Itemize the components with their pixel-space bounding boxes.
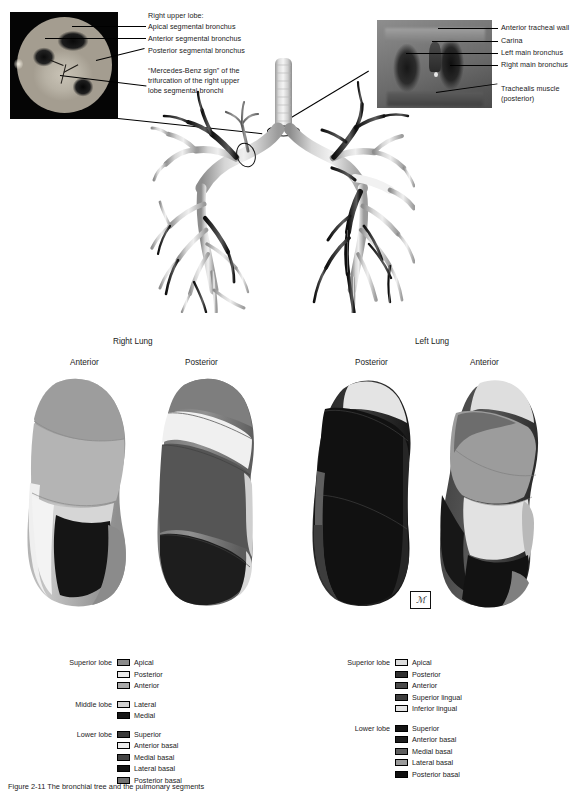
legend-row: Anterior: [117, 680, 267, 692]
legend-segment-label: Lateral basal: [412, 758, 453, 768]
label-trachealis-posterior: (posterior): [501, 94, 534, 104]
legend-row: Posterior: [117, 669, 267, 681]
legend-segment-label: Posterior: [412, 670, 441, 680]
legend-row: Superior lobeApical: [117, 657, 267, 669]
legend-segment-label: Posterior basal: [412, 770, 460, 780]
legend-segment-label: Anterior: [134, 681, 159, 691]
legend-color-swatch: [117, 754, 130, 761]
legend-row: Lower lobeSuperior: [395, 723, 545, 735]
leader-right-main-bronchus: [450, 65, 498, 66]
label-carina: Carina: [501, 36, 522, 46]
figure-caption: Figure 2-11 The bronchial tree and the p…: [8, 782, 204, 791]
right-lung-anterior-label: Anterior: [70, 358, 99, 368]
legend-row: Lateral basal: [395, 757, 545, 769]
legend-lobe-label: Superior lobe: [347, 658, 390, 667]
right-lung-title: Right Lung: [113, 337, 153, 347]
legend-row: Lower lobeSuperior: [117, 729, 267, 741]
legend-color-swatch: [117, 671, 130, 678]
carina-shape: [429, 42, 441, 72]
legend-row: Middle lobeLateral: [117, 699, 267, 711]
legend-segment-label: Anterior: [412, 681, 437, 691]
legend-color-swatch: [117, 765, 130, 772]
label-posterior-segmental: Posterior segmental bronchus: [148, 46, 245, 56]
leader-left-main-bronchus: [406, 53, 498, 54]
label-apical-segmental: Apical segmental bronchus: [148, 22, 236, 32]
legend-group: Lower lobeSuperiorAnterior basalMedial b…: [395, 723, 545, 781]
legend-row: Posterior: [395, 669, 545, 681]
trachea: [268, 58, 300, 136]
left-lung-anterior-label: Anterior: [470, 358, 499, 368]
legend-segment-label: Posterior: [134, 670, 163, 680]
legend-lobe-label: Lower lobe: [77, 730, 112, 739]
label-anterior-tracheal-wall: Anterior tracheal wall: [501, 23, 569, 33]
figure-canvas: Right upper lobe: Apical segmental bronc…: [0, 0, 575, 791]
legend-color-swatch: [395, 748, 408, 755]
left-upper-dark-segments: [322, 82, 408, 157]
leader-carina: [432, 41, 498, 42]
lung-model-right-posterior: [148, 375, 268, 610]
left-lung-posterior-label: Posterior: [355, 358, 388, 368]
legend-lobe-label: Middle lobe: [75, 700, 112, 709]
legend-segment-label: Anterior basal: [134, 741, 178, 751]
leader-anterior-tracheal-wall: [438, 28, 498, 29]
label-anterior-segmental: Anterior segmental bronchus: [148, 34, 241, 44]
legend-segment-label: Apical: [134, 658, 154, 668]
lung-model-left-posterior: [303, 375, 423, 610]
specular-highlight-right: [434, 72, 438, 77]
specular-highlight-left: [14, 58, 23, 70]
legend-row: Anterior basal: [117, 740, 267, 752]
legend-color-swatch: [395, 671, 408, 678]
legend-right-lung: Superior lobeApicalPosteriorAnteriorMidd…: [117, 657, 267, 786]
legend-color-swatch: [395, 736, 408, 743]
legend-color-swatch: [395, 705, 408, 712]
legend-row: Anterior basal: [395, 734, 545, 746]
bronchoscopic-view-right-upper-lobe: [10, 12, 118, 119]
legend-group: Superior lobeApicalPosteriorAnteriorSupe…: [395, 657, 545, 715]
legend-color-swatch: [117, 712, 130, 719]
legend-row: Posterior basal: [395, 769, 545, 781]
lung-model-right-anterior: [16, 375, 144, 610]
legend-left-lung: Superior lobeApicalPosteriorAnteriorSupe…: [395, 657, 545, 780]
left-lung-title: Left Lung: [415, 337, 449, 347]
label-left-main-bronchus: Left main bronchus: [501, 48, 563, 58]
left-ant-inferior-lingular: [463, 497, 529, 560]
legend-group: Middle lobeLateralMedial: [117, 699, 267, 722]
leader-apical: [72, 26, 146, 27]
legend-color-swatch: [395, 682, 408, 689]
lung-model-left-anterior: [428, 375, 556, 610]
legend-row: Lateral basal: [117, 763, 267, 775]
legend-color-swatch: [395, 725, 408, 732]
legend-color-swatch: [117, 701, 130, 708]
legend-segment-label: Medial basal: [134, 753, 174, 763]
legend-color-swatch: [395, 694, 408, 701]
label-right-upper-lobe: Right upper lobe:: [148, 11, 204, 21]
legend-segment-label: Lateral basal: [134, 764, 175, 774]
legend-color-swatch: [117, 731, 130, 738]
legend-segment-label: Medial: [134, 711, 155, 721]
legend-color-swatch: [395, 659, 408, 666]
bronchial-tree-illustration: [150, 58, 415, 313]
leader-anterior-seg: [45, 38, 146, 39]
bronchial-tree-svg: [150, 58, 415, 313]
legend-group: Lower lobeSuperiorAnterior basalMedial b…: [117, 729, 267, 787]
legend-row: Medial basal: [117, 752, 267, 764]
legend-segment-label: Superior: [134, 730, 161, 740]
legend-lobe-label: Lower lobe: [355, 724, 390, 733]
artist-signature-mark: ℳ: [410, 591, 431, 609]
legend-row: Medial: [117, 710, 267, 722]
right-lung-posterior-label: Posterior: [185, 358, 218, 368]
left-post-posterior-segment: [314, 408, 409, 605]
legend-segment-label: Anterior basal: [412, 735, 456, 745]
legend-color-swatch: [395, 771, 408, 778]
legend-color-swatch: [117, 659, 130, 666]
legend-segment-label: Medial basal: [412, 747, 452, 757]
legend-segment-label: Superior lingual: [412, 693, 462, 703]
artist-signature-glyph: ℳ: [416, 595, 426, 605]
legend-row: Inferior lingual: [395, 703, 545, 715]
legend-segment-label: Lateral: [134, 700, 156, 710]
legend-group: Superior lobeApicalPosteriorAnterior: [117, 657, 267, 692]
label-trachealis-muscle: Trachealis muscle: [501, 84, 560, 94]
label-right-main-bronchus: Right main bronchus: [501, 60, 568, 70]
legend-row: Superior lingual: [395, 692, 545, 704]
legend-row: Superior lobeApical: [395, 657, 545, 669]
